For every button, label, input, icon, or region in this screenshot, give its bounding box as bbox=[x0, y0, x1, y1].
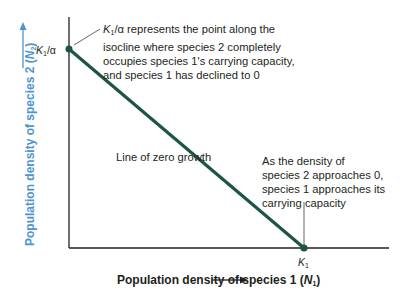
annotation-right-line-4: carrying capacity bbox=[262, 196, 385, 210]
x-intercept-point bbox=[301, 245, 308, 252]
y-var-sub: 2 bbox=[30, 47, 37, 51]
y-intercept-point bbox=[66, 46, 73, 53]
x-var-sub: 1 bbox=[312, 280, 316, 287]
annotation-right-line-3: species 1 approaches its bbox=[262, 182, 385, 196]
y-axis-title-text: Population density of species 2 bbox=[23, 67, 37, 246]
annotation-text: /α represents the point along the bbox=[114, 23, 275, 35]
y-intercept-label: K1/α bbox=[36, 43, 56, 61]
annotation-top-line-2: isocline where species 2 completely bbox=[103, 40, 295, 54]
x-intercept-label: K1 bbox=[298, 255, 309, 273]
isocline-label: Line of zero growth bbox=[116, 150, 211, 164]
y-axis-title: Population density of species 2 (N2) bbox=[22, 16, 38, 246]
annotation-top-line-3: occupies species 1's carrying capacity, bbox=[103, 54, 295, 68]
annotation-top-line-4: and species 1 has declined to 0 bbox=[103, 68, 295, 82]
annotation-top-line-1: K1/α represents the point along the bbox=[103, 22, 295, 40]
leader-line-top bbox=[74, 29, 100, 45]
k-symbol: K bbox=[298, 256, 305, 268]
y-var: N bbox=[23, 51, 37, 60]
annotation-right-line-1: As the density of bbox=[262, 154, 385, 168]
annotation-right: As the density of species 2 approaches 0… bbox=[262, 154, 385, 210]
annotation-top: K1/α represents the point along the isoc… bbox=[103, 22, 295, 82]
k-subscript: 1 bbox=[305, 262, 309, 269]
x-axis-title-text: Population density of species 1 bbox=[117, 273, 296, 287]
x-axis-title: Population density of species 1 (N1) bbox=[117, 272, 320, 292]
alpha-text: /α bbox=[47, 44, 56, 56]
annotation-right-line-2: species 2 approaches 0, bbox=[262, 168, 385, 182]
